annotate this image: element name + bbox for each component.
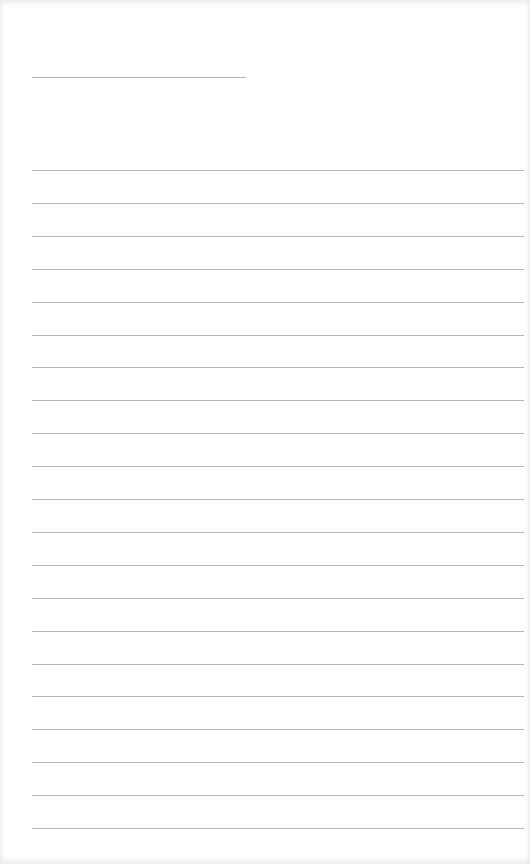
ruled-line (32, 269, 524, 270)
ruled-line (32, 565, 524, 566)
ruled-line (32, 203, 524, 204)
ruled-line (32, 170, 524, 171)
ruled-line (32, 828, 524, 829)
ruled-line (32, 532, 524, 533)
ruled-lines (32, 0, 524, 864)
ruled-line (32, 598, 524, 599)
ruled-line (32, 302, 524, 303)
ruled-line (32, 466, 524, 467)
ruled-line (32, 729, 524, 730)
ruled-line (32, 367, 524, 368)
ruled-line (32, 400, 524, 401)
ruled-line (32, 499, 524, 500)
ruled-line (32, 762, 524, 763)
ruled-line (32, 631, 524, 632)
ruled-line (32, 664, 524, 665)
lined-paper-page (0, 0, 530, 864)
ruled-line (32, 795, 524, 796)
ruled-line (32, 696, 524, 697)
ruled-line (32, 335, 524, 336)
ruled-line (32, 236, 524, 237)
ruled-line (32, 433, 524, 434)
